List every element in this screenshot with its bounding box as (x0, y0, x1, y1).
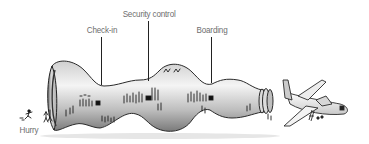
bottle-neck (259, 89, 273, 114)
boarding-label: Boarding (195, 24, 229, 35)
airplane-illustration (283, 80, 347, 126)
funnel-illustration (0, 0, 369, 144)
ground-shadow (40, 133, 280, 139)
boarding-leader-line (211, 37, 212, 83)
funnel-tube (52, 61, 266, 131)
hurrying-figure (20, 110, 32, 120)
check-in-leader-line (101, 37, 102, 85)
check-in-label: Check-in (85, 24, 119, 35)
security-control-label: Security control (123, 8, 176, 19)
hurry-label: Hurry (16, 124, 42, 135)
security-control-leader-line (148, 21, 149, 81)
airport-flow-diagram: Check-in Security control Boarding Hurry (0, 0, 369, 144)
